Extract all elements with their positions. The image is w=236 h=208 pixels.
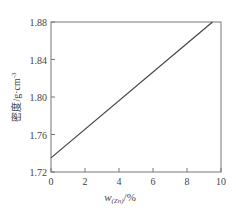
- chart-canvas: 1.721.761.801.841.88 0246810 密度/g·cm-3 w…: [0, 0, 236, 208]
- y-tick-label: 1.76: [30, 130, 48, 141]
- y-tick-label: 1.80: [30, 92, 48, 103]
- x-tick-label: 8: [185, 176, 190, 187]
- plot-frame: [51, 22, 221, 172]
- y-axis-label: 密度/g·cm-3: [10, 72, 22, 122]
- x-tick-label: 0: [49, 176, 54, 187]
- y-tick-label: 1.88: [30, 17, 48, 28]
- x-tick-label: 2: [83, 176, 88, 187]
- y-tick-label: 1.84: [30, 55, 48, 66]
- x-tick-label: 10: [216, 176, 226, 187]
- x-axis-label: w(Zn)/%: [104, 191, 136, 205]
- y-tick-label: 1.72: [30, 167, 48, 178]
- density-chart: 1.721.761.801.841.88 0246810 密度/g·cm-3 w…: [0, 0, 236, 208]
- density-line: [51, 22, 213, 158]
- x-tick-label: 4: [117, 176, 122, 187]
- x-axis-ticks: 0246810: [49, 168, 227, 187]
- x-tick-label: 6: [151, 176, 156, 187]
